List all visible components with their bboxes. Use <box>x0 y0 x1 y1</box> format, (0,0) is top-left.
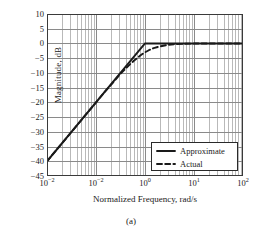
chart-legend: ApproximateActual <box>152 143 238 171</box>
x-tick-label: 101 <box>188 178 200 188</box>
x-tick-label: 100 <box>139 178 151 188</box>
y-tick-label: −10 <box>31 68 44 78</box>
y-tick-label: −20 <box>31 97 44 107</box>
legend-label-2: Actual <box>180 159 203 169</box>
y-tick-label: −25 <box>31 112 44 122</box>
y-tick-label: 10 <box>36 9 45 19</box>
bode-magnitude-figure: Magnitude, dB ApproximateActual 1050−5−1… <box>0 0 262 239</box>
x-tick-label: 10−2 <box>39 178 54 188</box>
x-tick-label: 102 <box>237 178 249 188</box>
x-tick-label: 10−2 <box>88 178 103 188</box>
figure-caption: (a) <box>0 216 262 226</box>
y-tick-label: 5 <box>40 24 44 34</box>
y-tick-label: −5 <box>35 53 44 63</box>
y-tick-label: −35 <box>31 142 44 152</box>
y-tick-label: −40 <box>31 156 44 166</box>
y-axis-title: Magnitude, dB <box>53 15 63 135</box>
y-tick-label: −15 <box>31 83 44 93</box>
legend-label-1: Approximate <box>180 146 225 156</box>
y-tick-label: 0 <box>40 38 44 48</box>
y-tick-label: −30 <box>31 127 44 137</box>
x-axis-title: Normalized Frequency, rad/s <box>47 194 243 204</box>
plot-canvas: ApproximateActual <box>47 14 243 176</box>
plot-area: Magnitude, dB ApproximateActual 1050−5−1… <box>47 14 243 176</box>
